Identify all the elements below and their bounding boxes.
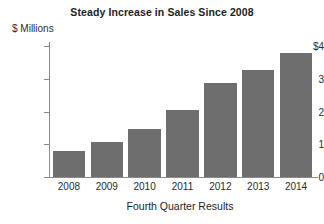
x-axis-line — [44, 177, 318, 178]
x-tick-label: 2008 — [50, 181, 88, 192]
bar-2010 — [128, 129, 160, 177]
y-axis-label: $ Millions — [12, 23, 54, 34]
x-tick-label: 2009 — [88, 181, 126, 192]
x-tick-label: 2014 — [277, 181, 315, 192]
bar-chart-figure: Steady Increase in Sales Since 2008 $ Mi… — [0, 0, 324, 224]
x-tick-label: 2013 — [239, 181, 277, 192]
bar-2009 — [91, 142, 123, 177]
x-tick-label: 2012 — [201, 181, 239, 192]
bar-2013 — [242, 70, 274, 177]
plot-area — [50, 40, 315, 177]
chart-title: Steady Increase in Sales Since 2008 — [0, 6, 324, 18]
y-tick-mark — [44, 177, 50, 178]
x-tick-label: 2011 — [164, 181, 202, 192]
bar-2012 — [204, 83, 236, 177]
bar-2011 — [166, 110, 198, 177]
x-tick-label: 2010 — [126, 181, 164, 192]
bar-2014 — [280, 53, 312, 177]
x-axis-label: Fourth Quarter Results — [40, 200, 320, 212]
bar-2008 — [53, 151, 85, 177]
